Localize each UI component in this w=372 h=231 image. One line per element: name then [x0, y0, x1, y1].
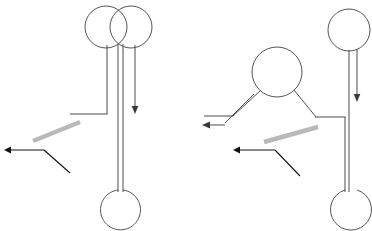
figure-illustration [0, 0, 372, 231]
drawing-canvas [0, 0, 372, 231]
canvas-background [0, 0, 372, 231]
